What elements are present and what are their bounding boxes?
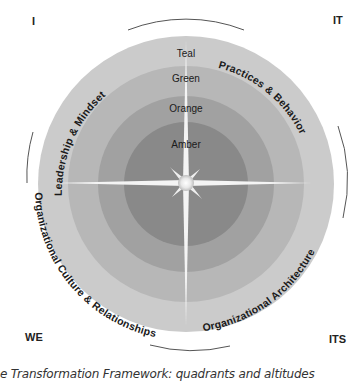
altitude-label-amber: Amber [171, 139, 201, 150]
altitude-label-orange: Orange [169, 103, 203, 114]
corner-label-we: WE [25, 331, 43, 343]
corner-label-its: ITS [329, 333, 346, 345]
transformation-framework-diagram: Teal Green Orange Amber Leadership & Min… [0, 0, 359, 389]
corner-label-it: IT [333, 14, 343, 26]
altitude-label-teal: Teal [177, 48, 195, 59]
outer-arc-bottom [150, 345, 230, 351]
outer-arc-right [338, 126, 348, 218]
corner-label-i: I [32, 15, 35, 27]
outer-arc-left [27, 132, 33, 183]
figure-caption: e Transformation Framework: quadrants an… [0, 367, 315, 381]
altitude-label-green: Green [172, 73, 200, 84]
outer-arc-top [128, 19, 244, 30]
